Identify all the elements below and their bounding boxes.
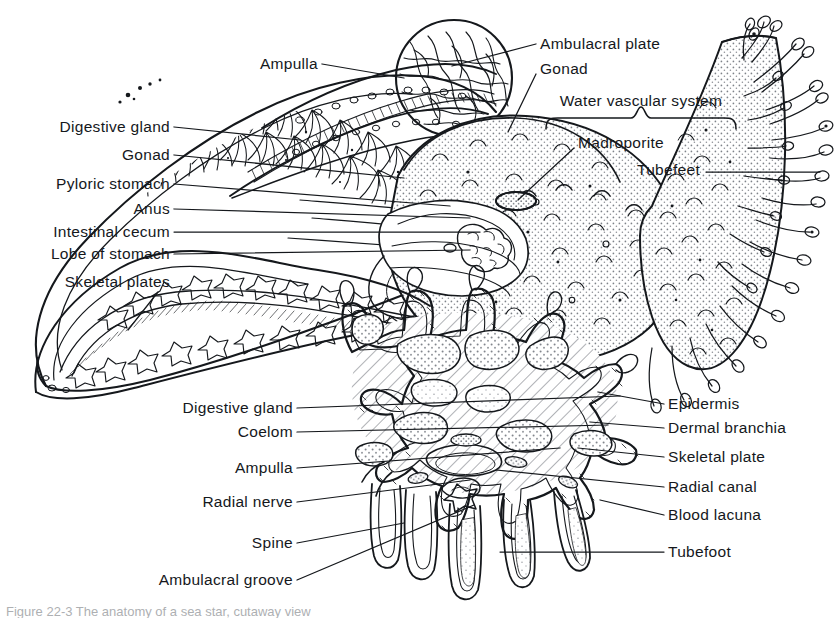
label-anus: Anus: [133, 201, 170, 217]
label-tubefoot: Tubefoot: [668, 544, 731, 560]
label-madroporite: Madroporite: [578, 135, 664, 151]
leader-spine: [297, 523, 404, 543]
label-coelom: Coelom: [238, 424, 293, 440]
leader-digestive-gland-1: [174, 127, 300, 140]
label-lobe-of-stomach: Lobe of stomach: [51, 246, 170, 262]
leader-gonad-left: [174, 155, 404, 178]
cross-section-tubefeet: [371, 484, 590, 599]
label-skeletal-plates: Skeletal plates: [65, 274, 170, 290]
label-radial-canal: Radial canal: [668, 479, 757, 495]
label-digestive-gland-2: Digestive gland: [183, 400, 293, 416]
label-pyloric-stomach: Pyloric stomach: [56, 176, 170, 192]
label-tubefeet: Tubefeet: [637, 162, 700, 178]
label-ambulacral-plate: Ambulacral plate: [540, 36, 660, 52]
label-ampulla-top: Ampulla: [260, 56, 318, 72]
label-epidermis: Epidermis: [668, 396, 740, 412]
leader-radial-nerve: [297, 480, 470, 502]
label-radial-nerve: Radial nerve: [202, 494, 293, 510]
label-blood-lacuna: Blood lacuna: [668, 507, 761, 523]
madroporite-shape: [496, 192, 536, 210]
leader-ambulacral-groove: [297, 505, 474, 580]
label-intestinal-cecum: Intestinal cecum: [53, 224, 170, 240]
label-digestive-gland-1: Digestive gland: [60, 119, 170, 135]
label-gonad-top: Gonad: [540, 61, 588, 77]
label-spine: Spine: [252, 535, 293, 551]
leader-blood-lacuna: [600, 500, 664, 515]
label-ampulla-lower: Ampulla: [235, 460, 293, 476]
label-ambulacral-groove: Ambulacral groove: [159, 572, 293, 588]
label-gonad-left: Gonad: [122, 147, 170, 163]
label-dermal-branchia: Dermal branchia: [668, 420, 786, 436]
sea-star-anatomy-figure: AmpullaAmbulacral plateGonadWater vascul…: [0, 0, 840, 619]
figure-caption: Figure 22-3 The anatomy of a sea star, c…: [6, 604, 311, 618]
right-arm-tubefeet: [640, 14, 834, 414]
label-skeletal-plate: Skeletal plate: [668, 449, 765, 465]
label-water-vascular: Water vascular system: [560, 93, 722, 109]
